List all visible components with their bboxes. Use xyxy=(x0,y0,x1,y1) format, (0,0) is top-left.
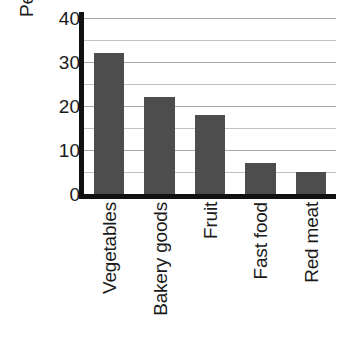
x-tick-slot: Fast food xyxy=(235,202,285,360)
x-tick-label: Bakery goods xyxy=(150,202,169,316)
x-axis-tick-labels: VegetablesBakery goodsFruitFast foodRed … xyxy=(84,202,336,360)
x-tick-slot: Bakery goods xyxy=(134,202,184,360)
x-tick-slot: Red meat xyxy=(286,202,336,360)
gridline-minor xyxy=(84,40,336,41)
x-tick-label: Vegetables xyxy=(100,202,119,294)
y-axis-title: Percent wasted xyxy=(10,0,44,48)
bar-chart-figure: Percent wasted 010203040 VegetablesBaker… xyxy=(0,0,355,363)
bar[interactable] xyxy=(245,163,275,194)
bar[interactable] xyxy=(144,97,174,194)
bar[interactable] xyxy=(195,115,225,194)
y-axis-tick-labels: 010203040 xyxy=(44,18,80,194)
bar[interactable] xyxy=(296,172,326,194)
x-tick-slot: Fruit xyxy=(185,202,235,360)
plot-area xyxy=(84,18,336,194)
x-tick-label: Red meat xyxy=(301,202,320,283)
bar[interactable] xyxy=(94,53,124,194)
y-tick-label: 30 xyxy=(59,53,80,72)
y-tick-label: 10 xyxy=(59,141,80,160)
x-tick-label: Fast food xyxy=(251,202,270,279)
y-tick-label: 40 xyxy=(59,9,80,28)
y-tick-label: 20 xyxy=(59,97,80,116)
gridline-major xyxy=(84,18,336,19)
x-tick-label: Fruit xyxy=(200,202,219,239)
x-axis-spine xyxy=(79,194,336,199)
y-axis-spine xyxy=(79,12,84,196)
x-tick-slot: Vegetables xyxy=(84,202,134,360)
